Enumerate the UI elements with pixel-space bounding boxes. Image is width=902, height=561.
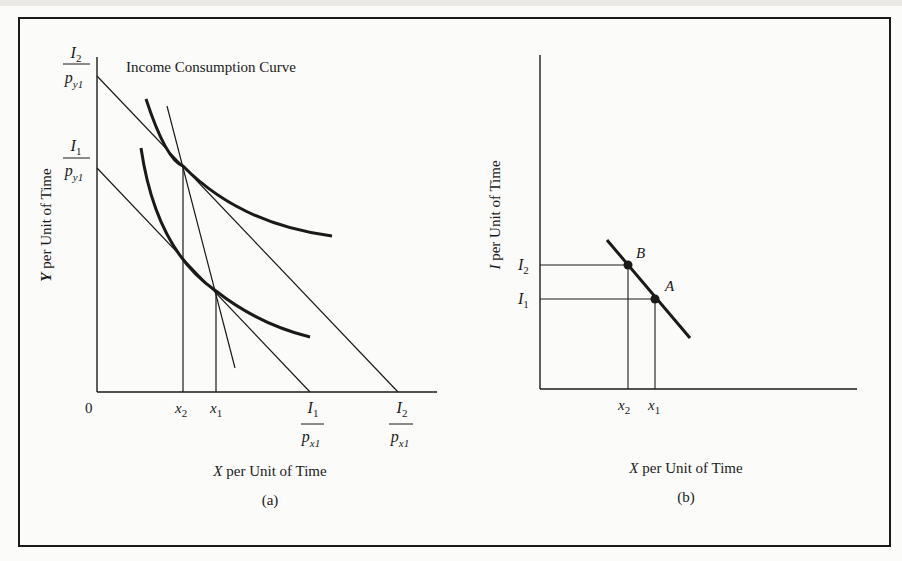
y-intercept-i1-py1: I1 py1 (63, 137, 90, 183)
origin-label: 0 (85, 400, 93, 416)
point-a-label: A (664, 278, 675, 294)
x-tick-x1-b: x1 (647, 397, 660, 416)
svg-text:py1: py1 (64, 69, 83, 90)
engel-curve (607, 240, 690, 338)
x-intercept-i1-px1: I1 px1 (301, 399, 324, 449)
figure-frame (19, 18, 890, 546)
svg-text:I1: I1 (70, 137, 82, 157)
svg-text:I2: I2 (70, 44, 82, 64)
indifference-curve-higher (146, 99, 332, 236)
panel-a-caption: (a) (262, 492, 279, 509)
panel-a: Income Consumption Curve I2 py1 I1 py1 Y… (38, 44, 437, 509)
panel-a-x-axis-label: X per Unit of Time (212, 463, 327, 479)
figure: Income Consumption Curve I2 py1 I1 py1 Y… (0, 0, 902, 561)
figure-canvas: Income Consumption Curve I2 py1 I1 py1 Y… (0, 0, 902, 561)
panel-b-caption: (b) (677, 489, 695, 506)
panel-a-title: Income Consumption Curve (126, 59, 296, 75)
y-tick-i2: I2 (517, 256, 529, 276)
svg-text:px1: px1 (301, 428, 320, 449)
panel-b: B A I2 I1 I per Unit of Time x2 x1 X per… (487, 55, 857, 506)
y-intercept-i2-py1: I2 py1 (63, 44, 90, 90)
panel-a-y-axis-label: Y per Unit of Time (38, 168, 54, 282)
budget-line-i2 (97, 76, 398, 392)
point-b-label: B (636, 245, 645, 261)
x-intercept-i2-px1: I2 px1 (389, 399, 413, 449)
x-tick-x1: x1 (209, 400, 222, 419)
panel-b-x-axis-label: X per Unit of Time (628, 460, 743, 476)
svg-text:py1: py1 (64, 162, 83, 183)
point-b (624, 261, 633, 270)
y-tick-i1: I1 (517, 290, 529, 310)
income-consumption-curve (167, 106, 235, 368)
panel-b-y-axis-label: I per Unit of Time (487, 160, 503, 271)
svg-text:I2: I2 (396, 399, 408, 419)
point-a (651, 295, 660, 304)
x-tick-x2: x2 (174, 400, 187, 419)
indifference-curve-lower (141, 148, 310, 337)
cropped-header-strip (0, 0, 902, 6)
x-tick-x2-b: x2 (617, 397, 630, 416)
svg-text:px1: px1 (390, 428, 409, 449)
svg-text:I1: I1 (307, 399, 319, 419)
